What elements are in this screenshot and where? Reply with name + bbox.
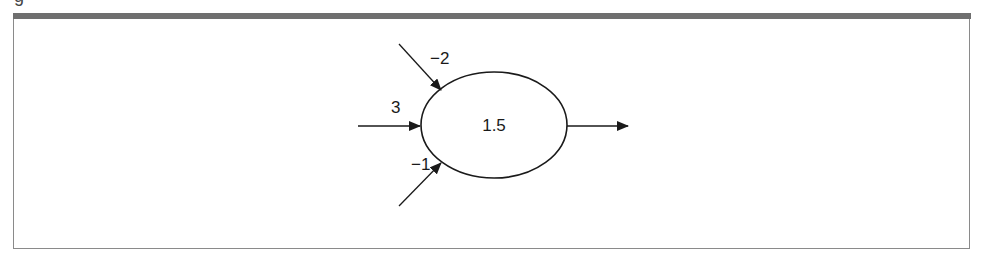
threshold-label: 1.5: [482, 116, 506, 135]
weight-label: 3: [391, 98, 400, 117]
perceptron-diagram: 1.5 −2 3 −1: [0, 0, 988, 261]
input-edge-1: −2: [399, 44, 449, 90]
neuron-node: 1.5: [421, 72, 567, 178]
weight-label: −2: [430, 49, 449, 68]
input-edge-2: 3: [358, 98, 420, 126]
weight-label: −1: [411, 155, 430, 174]
input-edge-3: −1: [399, 155, 441, 206]
